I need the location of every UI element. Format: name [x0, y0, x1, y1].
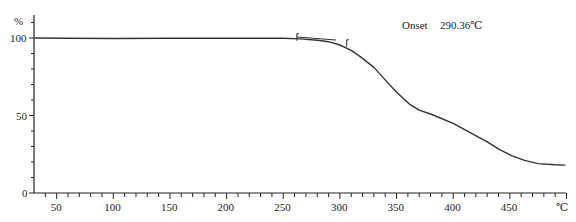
x-tick-label-400: 400 — [444, 202, 461, 213]
y-ticks — [29, 23, 34, 194]
x-tick-label-100: 100 — [104, 202, 121, 213]
y-tick-label-50: 50 — [16, 111, 27, 122]
axes — [34, 15, 566, 193]
x-tick-label-350: 350 — [388, 202, 405, 213]
tga-curve — [34, 38, 565, 165]
x-tick-label-250: 250 — [274, 202, 291, 213]
x-tick-label-300: 300 — [331, 202, 348, 213]
x-tick-label-50: 50 — [51, 202, 62, 213]
x-tick-label-450: 450 — [501, 202, 518, 213]
x-tick-label-200: 200 — [218, 202, 235, 213]
onset-label: Onset — [402, 20, 428, 31]
y-tick-label-0: 0 — [22, 188, 28, 199]
y-tick-label-100: 100 — [10, 33, 27, 44]
x-tick-label-150: 150 — [161, 202, 178, 213]
x-ticks — [45, 193, 566, 199]
x-unit-label: ℃ — [556, 202, 568, 213]
onset-value: 290.36℃ — [440, 20, 483, 31]
tga-chart — [0, 0, 576, 222]
y-unit-label: % — [14, 16, 23, 27]
